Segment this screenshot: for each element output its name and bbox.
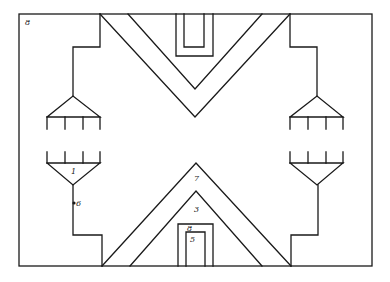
bottom-door [178, 224, 213, 266]
label-1: 1 [71, 167, 76, 176]
label-8-door: 8 [187, 224, 192, 233]
label-8-corner: 8 [25, 18, 30, 27]
label-5: 5 [190, 235, 195, 244]
label-3: 3 [194, 205, 199, 214]
label-7: 7 [194, 174, 200, 183]
right-upper-fixture [290, 14, 343, 129]
right-lower-fixture [290, 152, 343, 266]
diagram-canvas: 8 1 6 7 3 8 5 [0, 0, 390, 282]
left-upper-fixture [47, 14, 100, 129]
label-6: 6 [76, 199, 81, 208]
top-v-band [100, 14, 290, 117]
outer-frame [19, 14, 372, 266]
top-niche [176, 14, 213, 56]
